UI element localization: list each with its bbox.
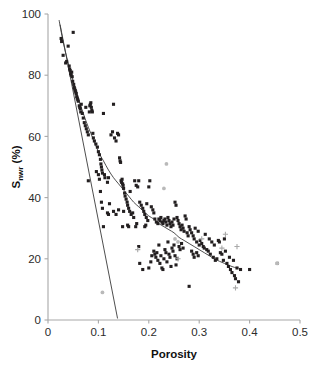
data-point-dark [84, 124, 87, 127]
data-point-dark [117, 208, 120, 211]
data-point-dark [188, 225, 191, 228]
data-point-dark [233, 274, 236, 277]
data-point-dark [121, 178, 124, 181]
x-tick-label: 0.1 [90, 326, 106, 338]
data-point-dark [181, 224, 184, 227]
data-point-dark [103, 173, 106, 176]
y-tick-label: 20 [28, 253, 41, 265]
data-point-dark [141, 207, 144, 210]
data-point-dark [144, 224, 147, 227]
data-point-dark [234, 277, 237, 280]
data-point-dark [82, 116, 85, 119]
data-point-dark [194, 227, 197, 230]
data-point-dark [235, 266, 238, 269]
data-point-gray [173, 237, 177, 241]
data-point-dark [232, 259, 235, 262]
data-point-dark [197, 254, 200, 257]
data-point-dark [237, 280, 240, 283]
data-point-dark [229, 268, 232, 271]
series-dark-markers [60, 31, 279, 288]
data-point-dark [183, 230, 186, 233]
data-point-dark [165, 224, 168, 227]
data-point-dark [128, 210, 131, 213]
data-point-dark [98, 178, 101, 181]
data-point-dark [192, 253, 195, 256]
data-point-dark [166, 240, 169, 243]
chart-figure: 020406080100 00.10.20.30.40.5 Porosity S… [0, 0, 320, 371]
data-point-dark [227, 265, 230, 268]
y-tick-label: 80 [28, 69, 41, 81]
data-point-dark [68, 64, 71, 67]
data-point-dark [149, 260, 152, 263]
data-point-dark [127, 225, 130, 228]
data-point-dark [98, 153, 101, 156]
data-point-dark [87, 133, 90, 136]
data-point-dark [173, 254, 176, 257]
data-point-dark [212, 256, 215, 259]
y-axis-title: Snwr (%) [10, 145, 25, 188]
data-point-dark [192, 234, 195, 237]
data-point-plus [233, 285, 238, 290]
data-point-dark [180, 242, 183, 245]
data-point-dark [208, 237, 211, 240]
data-point-dark [125, 198, 128, 201]
data-point-dark [126, 204, 129, 207]
data-point-dark [94, 143, 97, 146]
data-point-dark [75, 92, 78, 95]
data-point-dark [210, 240, 213, 243]
data-point-dark [174, 263, 177, 266]
data-point-dark [213, 243, 216, 246]
data-point-dark [155, 251, 158, 254]
data-point-dark [106, 181, 109, 184]
data-point-dark [150, 205, 153, 208]
data-point-dark [173, 201, 176, 204]
data-point-dark [159, 254, 162, 257]
x-tick-label: 0.5 [292, 326, 308, 338]
data-point-dark [71, 80, 74, 83]
data-point-dark [145, 202, 148, 205]
data-point-plus [223, 232, 228, 237]
data-point-dark [100, 165, 103, 168]
data-point-dark [154, 256, 157, 259]
data-point-dark [167, 219, 170, 222]
data-point-dark [102, 112, 105, 115]
data-point-dark [133, 179, 136, 182]
data-point-dark [176, 219, 179, 222]
data-point-dark [123, 191, 126, 194]
data-point-dark [172, 243, 175, 246]
data-point-dark [65, 60, 68, 63]
data-point-dark [147, 266, 150, 269]
data-point-dark [126, 201, 129, 204]
data-point-dark [182, 247, 185, 250]
data-point-dark [147, 185, 150, 188]
data-point-dark [166, 216, 169, 219]
data-point-dark [224, 250, 227, 253]
data-point-dark [168, 256, 171, 259]
data-point-dark [248, 268, 251, 271]
data-point-dark [99, 158, 102, 161]
data-point-dark [182, 227, 185, 230]
data-point-dark [141, 268, 144, 271]
data-point-dark [190, 231, 193, 234]
data-point-plus [234, 244, 239, 249]
data-point-dark [228, 256, 231, 259]
data-point-dark [185, 217, 188, 220]
y-axis-ticks: 020406080100 [22, 8, 48, 326]
data-point-dark [138, 262, 141, 265]
data-point-dark [135, 222, 138, 225]
data-point-dark [119, 161, 122, 164]
data-point-dark [137, 179, 140, 182]
data-point-dark [129, 190, 132, 193]
axes-group: 020406080100 00.10.20.30.40.5 [22, 8, 308, 338]
data-point-dark [171, 250, 174, 253]
data-point-dark [117, 133, 120, 136]
data-point-dark [79, 107, 82, 110]
data-point-dark [184, 214, 187, 217]
data-point-plus [219, 245, 224, 250]
data-point-dark [92, 136, 95, 139]
data-point-dark [72, 31, 75, 34]
data-point-dark [134, 225, 137, 228]
data-point-dark [113, 136, 116, 139]
data-point-dark [81, 112, 84, 115]
data-point-dark [230, 271, 233, 274]
